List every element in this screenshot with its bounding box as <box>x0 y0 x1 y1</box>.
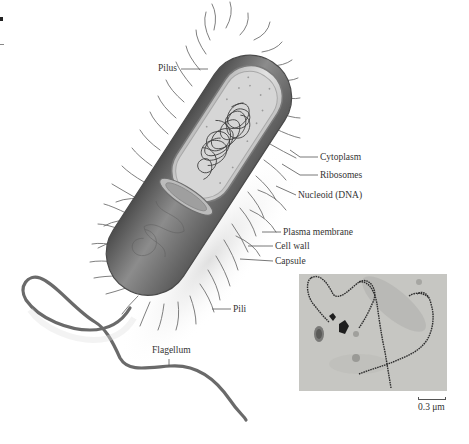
label-cytoplasm: Cytoplasm <box>320 153 361 163</box>
label-pili: Pili <box>233 305 246 315</box>
label-capsule: Capsule <box>275 257 306 267</box>
label-ribosomes: Ribosomes <box>320 171 362 181</box>
label-pilus: Pilus <box>158 64 177 74</box>
label-plasma-membrane: Plasma membrane <box>283 228 353 238</box>
scale-bar <box>418 397 446 400</box>
label-flagellum: Flagellum <box>152 346 191 356</box>
micrograph-flagella <box>299 274 447 391</box>
bacterial-cell-figure: Pilus Cytoplasm Ribosomes Nucleoid (DNA)… <box>0 0 469 444</box>
label-cell-wall: Cell wall <box>275 242 310 252</box>
electron-micrograph <box>299 274 447 391</box>
scale-bar-label: 0.3 μm <box>418 402 445 412</box>
label-nucleoid: Nucleoid (DNA) <box>298 191 362 201</box>
